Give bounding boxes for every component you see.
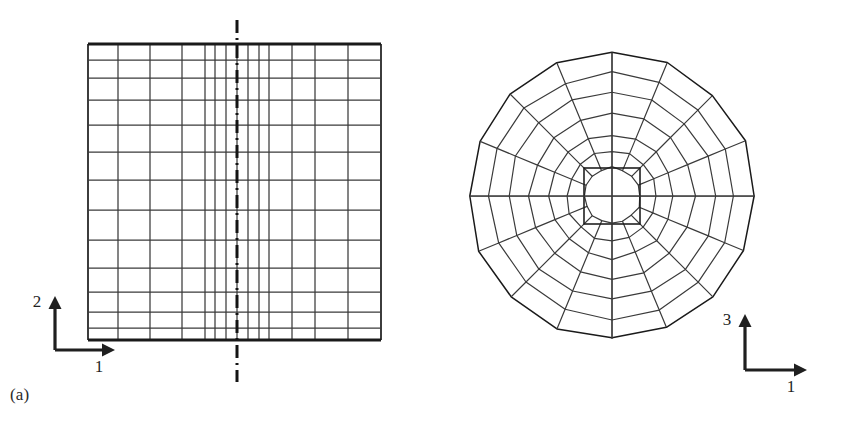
axis-label-horizontal-a: 1: [95, 357, 104, 376]
mesh-radial-spoke: [638, 141, 745, 185]
axis-indicator-b: 3 1: [723, 310, 807, 396]
figure-root: 2 1 (a) 3 1 (b): [0, 0, 841, 434]
rectangular-grid: [88, 44, 381, 340]
mesh-radial-spoke: [510, 94, 592, 176]
axis-horizontal-arrowhead-a: [102, 344, 115, 357]
caption-panel-a: (a): [10, 385, 29, 405]
polar-mesh: [469, 52, 755, 339]
axis-horizontal-arrowhead-b: [794, 364, 807, 377]
panel-a-rectangular-mesh: 2 1 (a): [0, 0, 420, 434]
mesh-radial-spoke: [511, 216, 592, 297]
panel-b-circular-mesh: 3 1 (b): [420, 0, 841, 434]
axis-vertical-arrowhead-b: [739, 314, 752, 327]
axis-label-vertical-b: 3: [723, 310, 732, 329]
panel-b-svg: 3 1: [420, 0, 841, 434]
panel-a-svg: 2 1: [0, 0, 420, 434]
axis-label-vertical-a: 2: [33, 292, 42, 311]
mesh-radial-spoke: [622, 221, 666, 327]
mesh-radial-spoke: [631, 215, 713, 297]
axis-label-horizontal-b: 1: [787, 377, 796, 396]
axis-indicator-a: 2 1: [33, 292, 115, 376]
mesh-radial-spoke: [632, 96, 713, 177]
axis-vertical-arrowhead-a: [49, 296, 62, 309]
